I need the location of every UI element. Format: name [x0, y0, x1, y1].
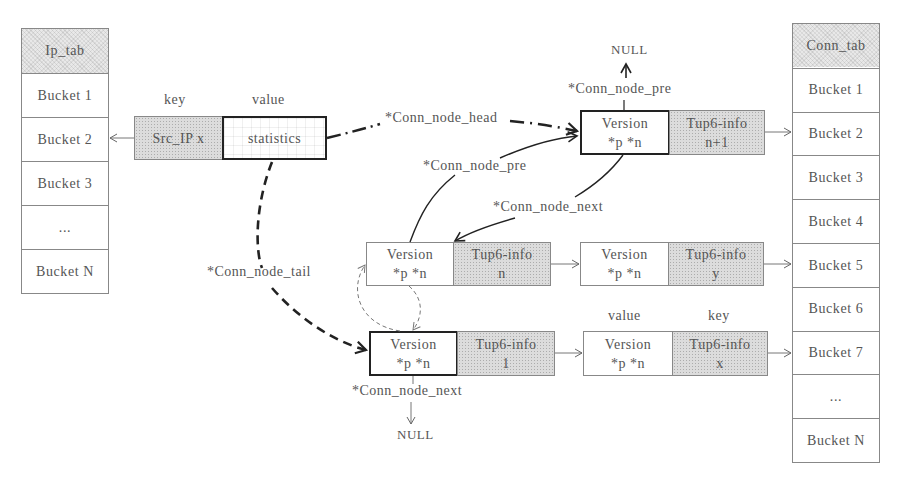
arrow-node-n-pre-to-n-plus-1: [410, 175, 455, 242]
arrow-node-n-plus-1-next-to-n: [575, 155, 623, 197]
arrow-conn-node-tail: [258, 162, 272, 268]
arrow-conn-node-head: [327, 124, 380, 138]
arrow-node-1-pre-to-n: [358, 265, 400, 331]
arrow-node-n-next-to-1: [409, 286, 420, 330]
connector-lines: [0, 0, 902, 481]
